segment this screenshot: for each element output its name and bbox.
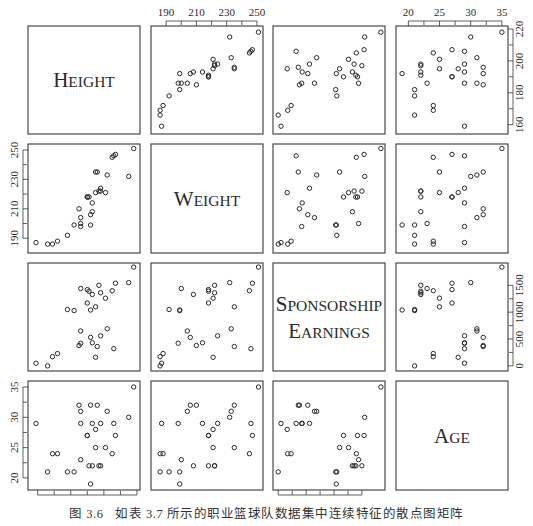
data-point — [72, 470, 76, 474]
data-point — [212, 283, 216, 287]
data-point — [500, 146, 504, 150]
data-point — [194, 343, 198, 347]
tick-label: 500 — [513, 330, 525, 347]
data-point — [178, 470, 182, 474]
tick-label: 1000 — [513, 301, 525, 324]
scatter-panel-weight-vs-sponsorship — [273, 144, 385, 253]
tick-label: 20 — [403, 6, 415, 18]
scatter-panel-weight-vs-height — [28, 144, 140, 253]
data-point — [98, 421, 102, 425]
data-point — [315, 56, 319, 60]
data-point — [437, 170, 441, 174]
tick-label: 1500 — [351, 498, 374, 500]
data-point — [212, 291, 216, 295]
data-point — [379, 385, 383, 389]
data-point — [431, 289, 435, 293]
data-point — [469, 174, 473, 178]
data-point — [93, 427, 97, 431]
data-point — [256, 385, 260, 389]
data-point — [72, 308, 76, 312]
data-point — [85, 433, 89, 437]
data-point — [256, 265, 260, 269]
data-point — [211, 355, 215, 359]
scatter-panel-age-vs-weight — [151, 381, 263, 490]
data-point — [286, 108, 290, 112]
scatter-panel-height-vs-age — [396, 26, 508, 134]
data-point — [450, 48, 454, 52]
data-point — [500, 265, 504, 269]
data-point — [161, 452, 165, 456]
data-point — [337, 445, 341, 449]
data-point — [161, 351, 165, 355]
data-point — [90, 421, 94, 425]
left-axis-age: 20253035 — [8, 381, 28, 483]
data-point — [412, 94, 416, 98]
data-point — [312, 81, 316, 85]
left-axis-weight: 190210230250 — [8, 141, 28, 246]
data-point — [79, 421, 83, 425]
data-point — [450, 281, 454, 285]
panel-frame — [396, 263, 508, 371]
data-point — [103, 296, 107, 300]
tick-label: 160 — [513, 116, 525, 133]
bottom-axis-height: 160180200220 — [29, 490, 145, 500]
data-point — [400, 308, 404, 312]
data-point — [200, 341, 204, 345]
data-point — [191, 464, 195, 468]
data-point — [105, 173, 109, 177]
data-point — [462, 347, 466, 351]
data-point — [475, 215, 479, 219]
data-point — [176, 341, 180, 345]
data-point — [296, 170, 300, 174]
tick-label: 30 — [8, 411, 20, 423]
data-point — [346, 57, 350, 61]
data-point — [431, 351, 435, 355]
data-point — [400, 71, 404, 75]
figure-caption-text: 如表 3.7 所示的职业篮球队数据集中连续特征的散点图矩阵 — [115, 507, 463, 521]
data-point — [456, 355, 460, 359]
data-point — [176, 421, 180, 425]
data-point — [65, 470, 69, 474]
data-point — [77, 207, 81, 211]
data-point — [97, 283, 101, 287]
data-point — [350, 70, 354, 74]
data-point — [456, 67, 460, 71]
data-point — [297, 207, 301, 211]
right-axis-sponsorship: 050010001500 — [508, 274, 525, 369]
data-point — [437, 305, 441, 309]
tick-label: 190 — [158, 6, 175, 18]
data-point — [437, 296, 441, 300]
data-point — [337, 67, 341, 71]
tick-label: 1500 — [513, 274, 525, 297]
data-point — [425, 286, 429, 290]
data-point — [55, 351, 59, 355]
scatter-panel-sponsorship-vs-age — [396, 263, 508, 371]
tick-label: 200 — [96, 498, 113, 500]
data-point — [179, 458, 183, 462]
data-point — [229, 56, 233, 60]
panel-frame — [28, 144, 140, 253]
data-point — [127, 415, 131, 419]
data-point — [481, 213, 485, 217]
data-point — [354, 452, 358, 456]
diagonal-label-panel-sponsorship: SPONSORSHIPEARNINGS — [273, 263, 385, 371]
data-point — [354, 155, 358, 159]
data-point — [294, 421, 298, 425]
data-point — [475, 56, 479, 60]
data-point — [285, 427, 289, 431]
data-point — [158, 113, 162, 117]
data-point — [412, 242, 416, 246]
tick-label: 35 — [8, 381, 20, 393]
data-point — [462, 334, 466, 338]
data-point — [279, 421, 283, 425]
data-point — [341, 433, 345, 437]
panel-frame — [151, 26, 263, 134]
data-point — [167, 470, 171, 474]
data-point — [350, 210, 354, 214]
data-point — [300, 224, 304, 228]
data-point — [276, 113, 280, 117]
tick-label: 220 — [513, 20, 525, 37]
data-point — [112, 421, 116, 425]
data-point — [159, 421, 163, 425]
data-point — [191, 292, 195, 296]
